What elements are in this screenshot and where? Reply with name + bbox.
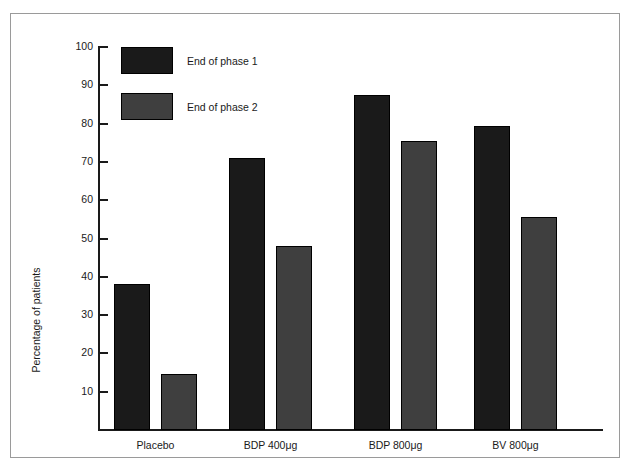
figure-frame: 100908070605040302010 Percentage of pati… [10, 13, 620, 458]
y-axis-tick-value: 50 [63, 233, 93, 244]
legend-label: End of phase 1 [187, 55, 258, 67]
bar [161, 374, 197, 430]
legend-label: End of phase 2 [187, 101, 258, 113]
bar [401, 141, 437, 430]
y-axis-tick [100, 46, 108, 48]
bar [114, 284, 150, 430]
y-axis-tick-label: 10 [59, 386, 93, 397]
y-axis-tick-value: 10 [63, 386, 93, 397]
bar [276, 246, 312, 430]
chart-plot-area: 100908070605040302010 Percentage of pati… [11, 14, 621, 459]
y-axis-tick-label: 100 [59, 41, 93, 52]
y-axis-tick-value: 60 [63, 194, 93, 205]
x-axis-category-label: BV 800μg [456, 439, 576, 451]
y-axis-tick [100, 391, 108, 393]
y-axis-tick [100, 314, 108, 316]
bar [521, 217, 557, 430]
y-axis-tick [100, 199, 108, 201]
y-axis-tick [100, 161, 108, 163]
legend-swatch [121, 47, 173, 74]
y-axis-tick-value: 80 [63, 118, 93, 129]
y-axis-tick-value: 20 [63, 347, 93, 358]
legend-swatch [121, 93, 173, 120]
x-axis-category-label: BDP 800μg [336, 439, 456, 451]
y-axis-tick-label: 70 [59, 156, 93, 167]
y-axis-tick-label: 90 [59, 79, 93, 90]
y-axis-title: Percentage of patients [30, 250, 42, 390]
y-axis-tick-value: 90 [63, 79, 93, 90]
y-axis-tick-value: 100 [63, 41, 93, 52]
y-axis-tick-label: 60 [59, 194, 93, 205]
y-axis-tick [100, 123, 108, 125]
y-axis-tick-label: 30 [59, 309, 93, 320]
y-axis-tick-label: 40 [59, 271, 93, 282]
y-axis-tick [100, 84, 108, 86]
y-axis-tick [100, 238, 108, 240]
x-axis-category-label: BDP 400μg [211, 439, 331, 451]
y-axis-tick-label: 80 [59, 118, 93, 129]
y-axis-tick [100, 276, 108, 278]
y-axis-tick-value: 70 [63, 156, 93, 167]
y-axis-tick-value: 30 [63, 309, 93, 320]
bar [474, 126, 510, 430]
bar [229, 158, 265, 430]
x-axis-category-label: Placebo [96, 439, 216, 451]
y-axis-tick-value: 40 [63, 271, 93, 282]
y-axis-tick-label: 50 [59, 233, 93, 244]
bar [354, 95, 390, 430]
y-axis-tick [100, 352, 108, 354]
y-axis-tick-label: 20 [59, 347, 93, 358]
